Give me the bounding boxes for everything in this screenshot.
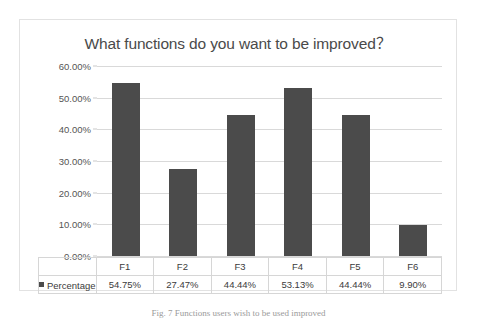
legend-entry: Percentage	[39, 276, 97, 294]
bar[interactable]	[399, 225, 427, 256]
chart-title: What functions do you want to be improve…	[20, 31, 456, 53]
bar-slot	[327, 66, 385, 256]
figure-caption: Fig. 7 Functions users wish to be used i…	[0, 308, 477, 318]
table-cell-value: 27.47%	[154, 276, 212, 294]
y-axis-tick-label: 50.00%	[59, 92, 91, 103]
table-cell-category: F6	[384, 258, 442, 276]
y-axis-tick-label: 40.00%	[59, 124, 91, 135]
table-cell-value: 44.44%	[211, 276, 269, 294]
table-cell-blank	[39, 258, 97, 276]
bar-slot	[155, 66, 213, 256]
y-axis-tick-label: 10.00%	[59, 219, 91, 230]
bar[interactable]	[227, 115, 255, 256]
table-cell-value: 53.13%	[269, 276, 327, 294]
bar[interactable]	[284, 88, 312, 256]
legend-swatch-icon	[39, 282, 44, 287]
table-row-values: Percentage 54.75%27.47%44.44%53.13%44.44…	[39, 276, 442, 294]
chart-frame: What functions do you want to be improve…	[19, 19, 457, 291]
table-cell-category: F1	[96, 258, 154, 276]
table-cell-category: F5	[326, 258, 384, 276]
data-table: F1F2F3F4F5F6 Percentage 54.75%27.47%44.4…	[38, 257, 442, 294]
bars-layer	[97, 66, 442, 256]
bar-slot	[270, 66, 328, 256]
bar[interactable]	[169, 169, 197, 256]
bar-slot	[212, 66, 270, 256]
legend-label: Percentage	[47, 279, 96, 290]
y-axis-tick-label: 30.00%	[59, 156, 91, 167]
table-cell-value: 44.44%	[326, 276, 384, 294]
table-cell-value: 54.75%	[96, 276, 154, 294]
table-cell-category: F3	[211, 258, 269, 276]
y-axis-tick-label: 60.00%	[59, 61, 91, 72]
bar[interactable]	[112, 83, 140, 256]
bar-slot	[97, 66, 155, 256]
table-cell-value: 9.90%	[384, 276, 442, 294]
bar-slot	[385, 66, 443, 256]
plot-area: 60.00%50.00%40.00%30.00%20.00%10.00%0.00…	[97, 66, 442, 256]
table-row-categories: F1F2F3F4F5F6	[39, 258, 442, 276]
bar[interactable]	[342, 115, 370, 256]
y-axis-tick-label: 20.00%	[59, 187, 91, 198]
table-cell-category: F2	[154, 258, 212, 276]
table-cell-category: F4	[269, 258, 327, 276]
